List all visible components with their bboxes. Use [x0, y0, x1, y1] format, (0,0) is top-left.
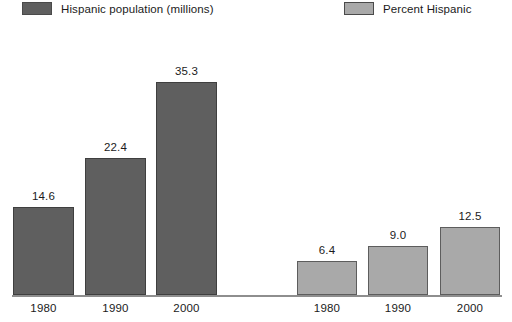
bar-value-pct-1980: 6.4	[297, 244, 357, 256]
tick-label-pop-2000: 2000	[156, 302, 217, 314]
chart-legend: Hispanic population (millions) Percent H…	[0, 0, 512, 24]
bar-pct-2000	[440, 227, 500, 295]
bar-value-pct-2000: 12.5	[440, 210, 500, 222]
bar-pct-1980	[297, 261, 357, 295]
x-axis-baseline	[12, 295, 502, 297]
legend-swatch-dark-icon	[22, 2, 52, 15]
bar-value-pop-2000: 35.3	[156, 65, 217, 77]
legend-item-percent-hispanic: Percent Hispanic	[344, 2, 472, 15]
bar-pop-1980	[13, 207, 74, 295]
tick-label-pct-2000: 2000	[440, 302, 500, 314]
bar-pct-1990	[368, 246, 428, 295]
bar-value-pop-1990: 22.4	[85, 141, 146, 153]
legend-item-hispanic-population: Hispanic population (millions)	[22, 2, 214, 15]
legend-label-hispanic-population: Hispanic population (millions)	[61, 3, 214, 15]
bar-pop-2000	[156, 82, 217, 295]
tick-label-pop-1990: 1990	[85, 302, 146, 314]
legend-label-percent-hispanic: Percent Hispanic	[383, 3, 472, 15]
legend-swatch-light-icon	[344, 2, 374, 15]
bar-value-pop-1980: 14.6	[13, 190, 74, 202]
tick-label-pct-1980: 1980	[297, 302, 357, 314]
bar-chart: Hispanic population (millions) Percent H…	[0, 0, 512, 322]
bar-value-pct-1990: 9.0	[368, 229, 428, 241]
tick-label-pop-1980: 1980	[13, 302, 74, 314]
bar-pop-1990	[85, 158, 146, 295]
plot-area: 14.6 22.4 35.3 1980 1990 2000 6.4 9.0 12…	[0, 24, 512, 322]
tick-label-pct-1990: 1990	[368, 302, 428, 314]
